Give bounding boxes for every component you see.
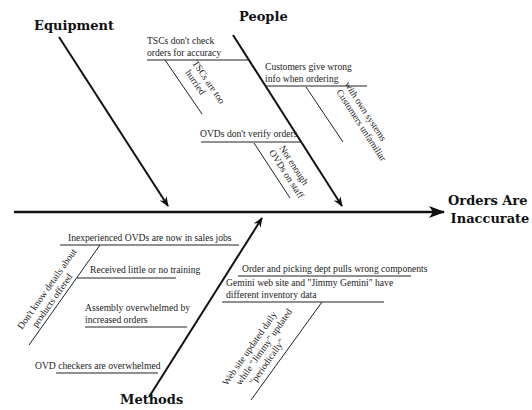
cause-gemini-inventory: Gemini web site and "Jimmy Gemini" have …: [220, 277, 396, 400]
sub-cause-text: Not enough OVDs on staff: [267, 141, 316, 200]
category-equipment: Equipment: [34, 18, 114, 33]
effect-line-1: Orders Are: [448, 193, 527, 208]
cause-ovd-checkers: OVD checkers are overwhelmed: [35, 360, 161, 373]
equipment-bone-arrow: [59, 37, 168, 206]
cause-text: OVD checkers are overwhelmed: [35, 360, 161, 371]
cause-order-picking: Order and picking dept pulls wrong compo…: [238, 263, 428, 276]
cause-text: Received little or no training: [90, 264, 200, 275]
cause-little-training: Received little or no training: [77, 264, 200, 278]
cause-inexperienced-ovds: Inexperienced OVDs are now in sales jobs…: [15, 232, 239, 345]
sub-cause-text: Don't know details about products offere…: [15, 244, 89, 337]
cause-assembly-overwhelmed: Assembly overwhelmed by increased orders: [85, 302, 192, 327]
cause-text: Gemini web site and "Jimmy Gemini" have …: [226, 277, 396, 300]
effect-label: Orders Are Inaccurate: [448, 193, 532, 226]
cause-text: Order and picking dept pulls wrong compo…: [242, 263, 428, 274]
sub-cause-text: TSCs are too hurried: [181, 58, 229, 114]
cause-text: Assembly overwhelmed by increased orders: [85, 302, 192, 325]
cause-tscs-dont-check: TSCs don't check orders for accuracy TSC…: [147, 35, 249, 114]
cause-text: TSCs don't check orders for accuracy: [147, 35, 221, 58]
category-people: People: [239, 9, 288, 24]
cause-text: Inexperienced OVDs are now in sales jobs: [68, 232, 232, 243]
effect-line-2: Inaccurate: [451, 211, 530, 226]
cause-text: Customers give wrong info when ordering: [265, 61, 354, 84]
fishbone-diagram: Orders Are Inaccurate Equipment People T…: [0, 0, 532, 410]
cause-text: OVDs don't verify orders: [200, 128, 298, 139]
sub-cause-text: Customers unfamiliar with own systems: [333, 79, 399, 165]
